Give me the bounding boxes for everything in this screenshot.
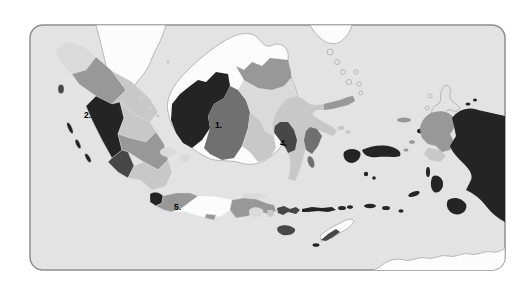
map-label-1: 1. [215, 120, 222, 130]
islands-sula [397, 118, 411, 123]
island-lombok [267, 210, 274, 217]
map-figure: 1. 2. 4. 5. [0, 0, 530, 290]
indonesia-choropleth-map: 1. 2. 4. 5. [0, 0, 530, 290]
map-label-2: 2. [84, 110, 91, 120]
map-label-5: 5. [174, 202, 181, 212]
island-belitung [179, 154, 191, 162]
island-nias [58, 85, 64, 94]
map-label-4: 4. [280, 138, 287, 148]
island-bangka [160, 148, 176, 157]
island-rote [313, 243, 320, 247]
